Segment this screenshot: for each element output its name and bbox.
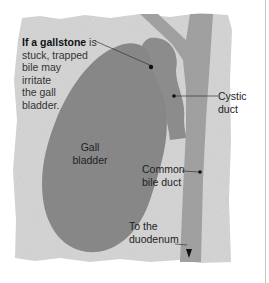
gall-bladder-label: Gall bladder	[70, 141, 110, 166]
common-bile-duct-label: Common bile duct	[142, 163, 185, 188]
common-bile-duct-dot	[198, 170, 202, 174]
cystic-duct-dot	[172, 94, 176, 98]
gallbladder-diagram: If a gallstone is stuck, trapped bile ma…	[0, 0, 269, 283]
cystic-duct-label: Cystic duct	[218, 90, 247, 115]
column-divider	[265, 0, 266, 283]
gallstone-caption: If a gallstone is stuck, trapped bile ma…	[22, 36, 100, 111]
gallstone-caption-bold: If a gallstone	[22, 36, 86, 48]
gallstone-dot	[149, 65, 153, 69]
to-duodenum-label: To the duodenum	[129, 220, 179, 245]
